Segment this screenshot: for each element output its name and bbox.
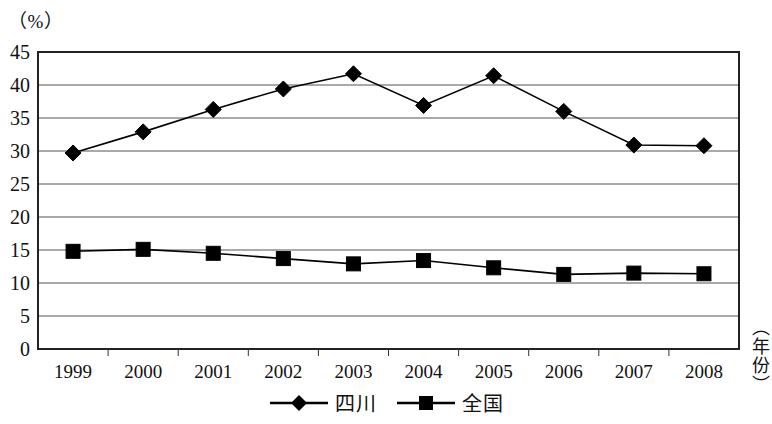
chart-legend: 四川全国	[0, 388, 772, 417]
series-line	[73, 249, 704, 274]
data-point-marker	[345, 66, 361, 82]
x-axis-tick-label: 2002	[248, 361, 318, 383]
data-point-marker	[417, 254, 431, 268]
x-axis-tick-label: 2008	[669, 361, 739, 383]
data-point-marker	[486, 68, 502, 84]
y-axis-tick-label: 45	[0, 41, 30, 64]
legend-square-icon	[395, 392, 457, 414]
data-point-marker	[557, 267, 571, 281]
series-line	[73, 74, 704, 153]
x-axis-tick-label: 2006	[529, 361, 599, 383]
data-point-marker	[205, 101, 221, 117]
data-point-marker	[136, 242, 150, 256]
legend-label: 四川	[335, 388, 377, 417]
y-axis-tick-label: 35	[0, 107, 30, 130]
data-point-marker	[65, 145, 81, 161]
legend-entry-2: 全国	[395, 388, 504, 417]
plot-area-border	[38, 52, 739, 349]
series-1	[65, 66, 712, 161]
y-axis-tick-label: 15	[0, 239, 30, 262]
data-point-marker	[135, 124, 151, 140]
y-axis-tick-label: 30	[0, 140, 30, 163]
plot-border-rect	[38, 52, 739, 349]
data-point-marker	[487, 261, 501, 275]
data-point-marker	[416, 97, 432, 113]
y-axis-tick-label: 5	[0, 305, 30, 328]
data-point-marker	[346, 257, 360, 271]
x-axis-tick-label: 2000	[108, 361, 178, 383]
data-point-marker	[697, 267, 711, 281]
series-2	[66, 242, 711, 281]
x-axis-tick-label: 2007	[599, 361, 669, 383]
chart-figure: （%） 051015202530354045 19992000200120022…	[0, 0, 772, 424]
x-axis-tick-label: 2005	[459, 361, 529, 383]
data-point-marker	[66, 244, 80, 258]
data-point-marker	[556, 103, 572, 119]
data-point-marker	[276, 252, 290, 266]
x-axis-tick-label: 2003	[318, 361, 388, 383]
x-axis-tick-label: 2004	[389, 361, 459, 383]
data-series-layer	[65, 66, 712, 282]
data-point-marker	[627, 266, 641, 280]
x-axis-tick-label: 2001	[178, 361, 248, 383]
data-point-marker	[275, 81, 291, 97]
legend-entry-1: 四川	[268, 388, 377, 417]
x-axis-title: （年份）	[738, 318, 768, 394]
legend-diamond-icon	[268, 392, 330, 414]
x-axis-ticks	[108, 349, 669, 356]
data-point-marker	[206, 246, 220, 260]
y-axis-tick-label: 20	[0, 206, 30, 229]
y-axis-tick-label: 10	[0, 272, 30, 295]
x-axis-tick-label: 1999	[38, 361, 108, 383]
y-axis-tick-label: 40	[0, 74, 30, 97]
y-axis-tick-label: 0	[0, 338, 30, 361]
legend-label: 全国	[462, 388, 504, 417]
y-axis-tick-label: 25	[0, 173, 30, 196]
